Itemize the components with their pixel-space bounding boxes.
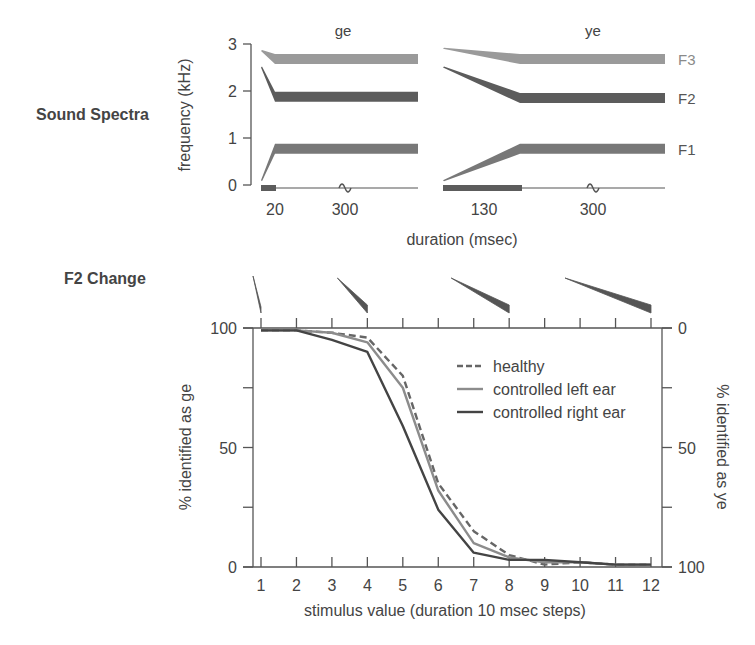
x-tick-label: 12 xyxy=(642,577,660,594)
legend-label: controlled left ear xyxy=(493,381,616,398)
y-tick-label: 1 xyxy=(228,130,237,147)
y-tick-label-right: 0 xyxy=(678,320,687,337)
x-tick-label: 2 xyxy=(292,577,301,594)
figure-canvas: 0123frequency (kHz)ge20300ye130300F3F2F1… xyxy=(0,0,755,645)
y-tick-label-left: 0 xyxy=(228,559,237,576)
formant-label-f3: F3 xyxy=(678,51,696,68)
legend-label: healthy xyxy=(493,358,545,375)
x-axis-label: stimulus value (duration 10 msec steps) xyxy=(304,602,586,619)
formant-f3-ge xyxy=(261,50,418,64)
y-axis-label-right: % identified as ye xyxy=(714,384,731,510)
y-tick-label: 3 xyxy=(228,36,237,53)
formant-label-f2: F2 xyxy=(678,90,696,107)
y-tick-label-left: 50 xyxy=(219,440,237,457)
transition-duration-bar xyxy=(443,185,522,191)
f2-change-chart: 050100100500123456789101112healthycontro… xyxy=(177,276,731,619)
y-tick-label: 0 xyxy=(228,177,237,194)
x-tick-label: 5 xyxy=(398,577,407,594)
x-tick-label: 11 xyxy=(607,577,624,594)
x-tick-label: 10 xyxy=(571,577,589,594)
f2-transition-glyph xyxy=(565,278,651,313)
duration-label: 20 xyxy=(266,201,284,218)
sound-spectra-chart: 0123frequency (kHz)ge20300ye130300F3F2F1… xyxy=(176,22,696,248)
panel-title-ge: ge xyxy=(335,22,352,39)
f2-transition-glyph xyxy=(337,278,367,313)
y-tick-label-right: 100 xyxy=(678,559,705,576)
f2-transition-glyph xyxy=(253,276,261,313)
y-tick-label-left: 100 xyxy=(210,320,237,337)
formant-f2-ye xyxy=(443,67,665,104)
x-axis-label: duration (msec) xyxy=(406,231,517,248)
panel-title-ye: ye xyxy=(585,22,601,39)
formant-label-f1: F1 xyxy=(678,141,696,158)
formant-f2-ge xyxy=(261,67,418,102)
x-tick-label: 6 xyxy=(434,577,443,594)
duration-label: 300 xyxy=(580,201,607,218)
x-tick-label: 4 xyxy=(363,577,372,594)
y-tick-label: 2 xyxy=(228,83,237,100)
f2-transition-glyph xyxy=(451,278,509,313)
x-tick-label: 3 xyxy=(327,577,336,594)
formant-f1-ye xyxy=(443,144,665,181)
duration-label: 130 xyxy=(471,201,498,218)
formant-f1-ge xyxy=(261,144,418,181)
transition-duration-bar xyxy=(261,185,276,191)
series-line-controlled-right-ear xyxy=(261,330,651,564)
x-tick-label: 8 xyxy=(505,577,514,594)
y-tick-label-right: 50 xyxy=(678,440,696,457)
legend-label: controlled right ear xyxy=(493,404,626,421)
x-tick-label: 7 xyxy=(469,577,478,594)
duration-label: 300 xyxy=(332,201,359,218)
formant-f3-ye xyxy=(443,48,665,64)
y-axis-label: frequency (kHz) xyxy=(176,59,193,172)
y-axis-label-left: % identified as ge xyxy=(177,384,194,510)
x-tick-label: 1 xyxy=(257,577,266,594)
x-tick-label: 9 xyxy=(540,577,549,594)
